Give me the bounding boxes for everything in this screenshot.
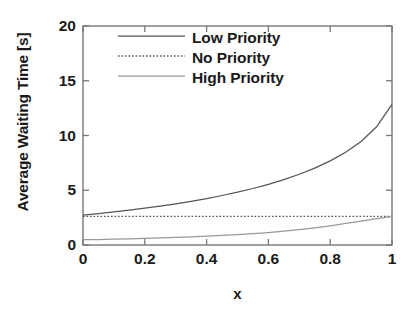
x-tick-label: 0.4 — [196, 250, 218, 268]
x-tick-label: 0.8 — [319, 250, 341, 268]
y-tick-label: 20 — [36, 17, 76, 35]
x-tick-label: 1 — [388, 250, 397, 268]
x-tick-label: 0 — [79, 250, 88, 268]
data-series — [83, 104, 392, 239]
legend-label-no-priority: No Priority — [192, 49, 270, 67]
y-tick-label: 0 — [36, 236, 76, 254]
x-tick-label: 0.2 — [134, 250, 156, 268]
x-tick-label: 0.6 — [258, 250, 280, 268]
y-tick-label: 5 — [36, 181, 76, 199]
y-axis-title: Average Waiting Time [s] — [14, 7, 32, 237]
x-axis-title: x — [83, 285, 392, 302]
chart-figure: Average Waiting Time [s] 0 5 10 15 20 0 … — [0, 0, 416, 316]
legend-label-high-priority: High Priority — [192, 69, 284, 87]
legend-label-low-priority: Low Priority — [192, 29, 280, 47]
legend-line-samples — [118, 36, 185, 76]
y-tick-label: 15 — [36, 72, 76, 90]
y-axis-tick-labels: 0 5 10 15 20 — [36, 0, 76, 316]
y-tick-label: 10 — [36, 127, 76, 145]
